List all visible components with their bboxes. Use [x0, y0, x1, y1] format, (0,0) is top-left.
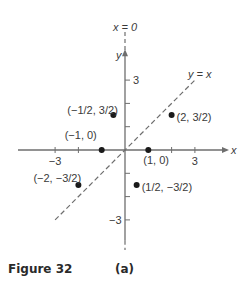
point-label: (−1, 0)	[65, 129, 97, 141]
x-axis-arrow	[222, 147, 229, 153]
y-tick-label: 3	[133, 74, 139, 86]
coordinate-plot: −333−3xyx = 0y = x(−1/2, 3/2)(2, 3/2)(−1…	[0, 0, 251, 287]
line-label-y-eq-x: y = x	[187, 68, 212, 80]
data-point	[99, 147, 105, 153]
line-label-x-eq-0: x = 0	[112, 21, 138, 33]
y-axis-arrow	[122, 49, 128, 56]
data-point	[134, 182, 140, 188]
point-label: (1, 0)	[143, 154, 169, 166]
x-tick-label: 3	[192, 155, 198, 167]
data-point	[169, 112, 175, 118]
x-axis-label: x	[230, 144, 237, 156]
point-label: (2, 3/2)	[177, 111, 212, 123]
y-axis-label: y	[115, 49, 123, 61]
x-tick-label: −3	[49, 155, 62, 167]
point-label: (1/2, −3/2)	[142, 181, 192, 193]
figure-caption: Figure 32	[8, 262, 72, 276]
point-label: (−2, −3/2)	[33, 172, 81, 184]
y-tick-label: −3	[109, 214, 122, 226]
data-point	[145, 147, 151, 153]
point-label: (−1/2, 3/2)	[67, 104, 117, 116]
figure-sublabel: (a)	[115, 262, 134, 276]
